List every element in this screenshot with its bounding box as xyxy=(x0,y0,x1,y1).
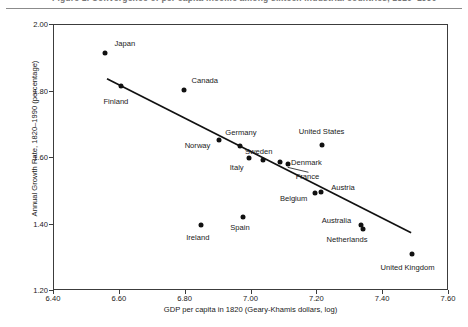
data-point xyxy=(237,144,242,149)
data-point-label: United Kingdom xyxy=(380,263,434,272)
x-axis-tick-mark xyxy=(251,290,252,294)
x-axis-tick-mark xyxy=(53,290,54,294)
x-axis-tick-mark xyxy=(448,290,449,294)
y-axis-tick-mark xyxy=(49,91,53,92)
y-axis-tick-label: 1.60 xyxy=(8,153,48,162)
x-axis-tick-mark xyxy=(119,290,120,294)
x-axis-tick-label: 6.40 xyxy=(33,294,73,303)
y-axis-tick-label: 1.80 xyxy=(8,86,48,95)
data-point-label: Austria xyxy=(331,182,355,191)
data-point xyxy=(182,87,187,92)
data-point xyxy=(320,143,325,148)
x-axis-tick-mark xyxy=(316,290,317,294)
data-point xyxy=(285,162,290,167)
data-point-label: Finland xyxy=(103,96,128,105)
x-axis-tick-label: 7.00 xyxy=(231,294,271,303)
data-point xyxy=(240,214,245,219)
data-point-label: Belgium xyxy=(280,193,307,202)
x-axis-tick-mark xyxy=(382,290,383,294)
data-point-label: United States xyxy=(299,127,345,136)
data-point xyxy=(278,160,283,165)
x-axis-tick-label: 6.80 xyxy=(165,294,205,303)
x-axis-label: GDP per capita in 1820 (Geary-Khamis dol… xyxy=(53,305,448,314)
trendline-layer xyxy=(54,25,449,291)
y-axis-tick-label: 2.00 xyxy=(8,20,48,29)
data-point xyxy=(103,50,108,55)
horizontal-rule xyxy=(6,8,462,9)
data-point-label: Australia xyxy=(322,215,352,224)
data-point xyxy=(246,156,251,161)
data-point xyxy=(199,223,204,228)
y-axis-tick-label: 1.40 xyxy=(8,219,48,228)
data-point-label: Spain xyxy=(230,222,249,231)
x-axis-tick-label: 6.60 xyxy=(99,294,139,303)
figure-caption-text: Figure 1. Convergence of per capita inco… xyxy=(52,0,437,3)
y-axis-tick-mark xyxy=(49,224,53,225)
figure-caption-strip: Figure 1. Convergence of per capita inco… xyxy=(0,0,468,9)
data-point xyxy=(313,190,318,195)
scatter-plot-area: JapanFinlandCanadaNorwayGermanySwedenIta… xyxy=(53,24,448,290)
data-point-label: Japan xyxy=(114,39,135,48)
x-axis-tick-mark xyxy=(185,290,186,294)
x-axis-tick-label: 7.40 xyxy=(362,294,402,303)
data-point-label: Sweden xyxy=(245,146,272,155)
data-point xyxy=(319,189,324,194)
data-point-label: Germany xyxy=(225,128,256,137)
figure-container: Figure 1. Convergence of per capita inco… xyxy=(0,0,468,327)
data-point-label: Norway xyxy=(185,141,211,150)
data-point xyxy=(261,158,266,163)
data-point xyxy=(409,252,414,257)
data-point-label: Italy xyxy=(230,163,244,172)
data-point-label: Denmark xyxy=(291,158,322,167)
x-axis-tick-label: 7.20 xyxy=(296,294,336,303)
y-axis-tick-mark xyxy=(49,24,53,25)
data-point xyxy=(118,84,123,89)
data-point xyxy=(216,138,221,143)
y-axis-tick-mark xyxy=(49,157,53,158)
x-axis-tick-label: 7.60 xyxy=(428,294,468,303)
regression-trendline xyxy=(107,79,411,233)
data-point-label: France xyxy=(296,172,320,181)
data-point xyxy=(360,227,365,232)
data-point-label: Netherlands xyxy=(326,234,367,243)
data-point-label: Canada xyxy=(191,75,218,84)
data-point-label: Ireland xyxy=(186,232,209,241)
